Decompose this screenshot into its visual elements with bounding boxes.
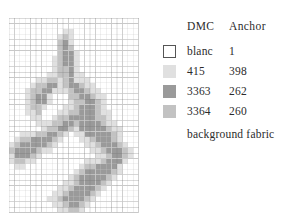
legend-anchor-3363: 262 xyxy=(229,85,247,97)
legend-row-blanc: blanc 1 xyxy=(163,41,298,61)
cross-stitch-pattern-grid xyxy=(9,18,139,213)
legend-swatch-cell xyxy=(163,105,187,118)
color-3364-swatch xyxy=(163,105,176,118)
color-415-swatch xyxy=(163,65,176,78)
legend-footer-note: background fabric xyxy=(187,128,298,140)
legend-dmc-3364: 3364 xyxy=(187,105,229,117)
legend-header-anchor: Anchor xyxy=(229,20,266,32)
color-key: DMC Anchor blanc 1 415 398 3363 262 xyxy=(163,20,298,140)
legend-swatch-cell xyxy=(163,65,187,78)
legend-anchor-415: 398 xyxy=(229,65,247,77)
legend-row-3364: 3364 260 xyxy=(163,101,298,121)
legend-row-3363: 3363 262 xyxy=(163,81,298,101)
legend-row-415: 415 398 xyxy=(163,61,298,81)
legend-dmc-blanc: blanc xyxy=(187,45,229,57)
legend-dmc-415: 415 xyxy=(187,65,229,77)
legend-anchor-blanc: 1 xyxy=(229,45,235,57)
legend-header-dmc: DMC xyxy=(187,20,229,32)
legend-anchor-3364: 260 xyxy=(229,105,247,117)
legend-swatch-cell xyxy=(163,45,187,58)
legend-header-row: DMC Anchor xyxy=(163,20,298,38)
color-3363-swatch xyxy=(163,85,176,98)
pattern-chart-page: DMC Anchor blanc 1 415 398 3363 262 xyxy=(0,0,300,213)
pattern-grid-canvas xyxy=(9,18,139,213)
legend-dmc-3363: 3363 xyxy=(187,85,229,97)
blanc-swatch xyxy=(163,45,176,58)
legend-swatch-cell xyxy=(163,85,187,98)
